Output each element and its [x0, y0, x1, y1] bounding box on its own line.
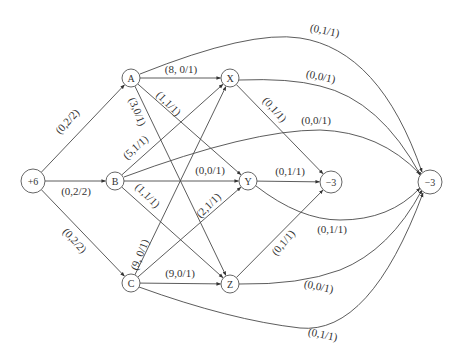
edge-label-b-to-x: (5,1/1): [120, 132, 151, 162]
edge-z-to-t1: [236, 190, 323, 277]
edge-labels-layer: (0,2/2)(0,2/2)(0,2/2)(8, 0/1)(1,1/1)(3,0…: [53, 21, 348, 344]
edge-label-a-to-x: (8, 0/1): [165, 63, 198, 76]
node-z: Z: [221, 275, 239, 293]
node-s: +6: [21, 169, 45, 193]
edge-label-a-to-t2: (0,1/1): [309, 21, 341, 40]
node-label: A: [127, 73, 135, 84]
edge-label-s-to-b: (0,2/2): [61, 185, 91, 198]
edge-c-to-z: [140, 283, 221, 284]
edge-label-y-to-t1: (0,1/1): [275, 165, 305, 178]
edge-label-x-to-t1: (0,1/1): [260, 94, 290, 125]
node-y: Y: [239, 172, 257, 190]
edge-label-c-to-z: (9,0/1): [165, 267, 195, 280]
node-label: Y: [244, 176, 251, 187]
edge-label-b-to-z: (1,1/1): [132, 180, 162, 210]
edge-x-to-t1: [236, 84, 323, 173]
edge-label-y-to-t2: (0,1/1): [317, 223, 347, 236]
node-label: C: [128, 278, 135, 289]
edge-label-a-to-y: (1,1/1): [153, 88, 183, 118]
edge-s-to-c: [41, 190, 124, 276]
edge-label-a-to-z: (3,0/1): [126, 96, 149, 129]
node-x: X: [221, 69, 239, 87]
node-b: B: [106, 172, 124, 190]
edge-label-z-to-t2: (0,0/1): [303, 277, 335, 296]
node-label: Z: [227, 279, 233, 290]
node-label: B: [112, 176, 119, 187]
node-a: A: [122, 69, 140, 87]
flow-network-diagram: (0,2/2)(0,2/2)(0,2/2)(8, 0/1)(1,1/1)(3,0…: [0, 0, 461, 361]
edge-y-to-t2: [256, 186, 420, 220]
edge-label-c-to-y: (2,1/1): [193, 190, 223, 220]
node-label: −3: [425, 177, 436, 188]
edge-label-b-to-y: (0,0/1): [195, 164, 225, 177]
edge-x-to-t2: [239, 80, 421, 176]
node-t2: −3: [418, 170, 442, 194]
edge-label-c-to-x: (9, 0/1): [128, 237, 152, 272]
edge-label-c-to-t2: (0,1/1): [307, 325, 339, 344]
node-c: C: [122, 274, 140, 292]
node-t1: −3: [320, 171, 342, 193]
edge-label-b-to-t2: (0,0/1): [301, 114, 331, 127]
edge-b-to-t2: [124, 130, 420, 177]
edge-a-to-t2: [140, 37, 422, 172]
node-label: +6: [28, 176, 39, 187]
node-label: X: [226, 73, 234, 84]
edge-label-s-to-c: (0,2/2): [60, 225, 90, 256]
node-label: −3: [326, 177, 337, 188]
edge-label-z-to-t1: (0,1/1): [269, 227, 298, 258]
edge-a-to-y: [138, 84, 241, 175]
edge-y-to-t1: [257, 181, 320, 182]
edge-z-to-t2: [239, 190, 422, 284]
edge-label-s-to-a: (0,2/2): [53, 106, 83, 137]
